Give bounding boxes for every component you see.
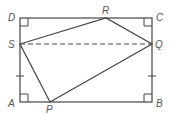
label-b: B [156, 98, 163, 109]
right-angle-mark-a [20, 94, 28, 102]
label-r: R [102, 5, 109, 16]
right-angle-mark-c [144, 18, 152, 26]
label-q: Q [155, 39, 163, 50]
label-p: P [46, 104, 53, 115]
label-c: C [156, 12, 164, 23]
right-angle-mark-d [20, 18, 28, 26]
label-d: D [8, 12, 15, 23]
rectangle-abcd [20, 18, 152, 102]
quadrilateral-pqrs [20, 18, 152, 102]
label-s: S [8, 39, 15, 50]
geometry-diagram: D C R S Q A B P [0, 0, 171, 115]
right-angle-mark-b [144, 94, 152, 102]
label-a: A [7, 98, 15, 109]
